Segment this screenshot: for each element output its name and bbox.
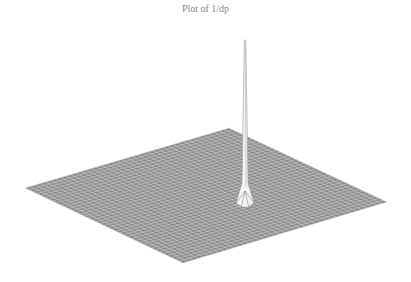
surface-mesh bbox=[25, 128, 387, 263]
surface-plot bbox=[0, 0, 411, 282]
